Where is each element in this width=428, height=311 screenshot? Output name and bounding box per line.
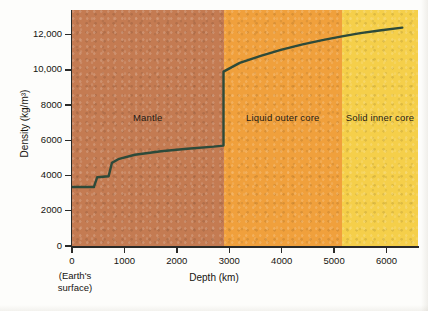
y-tick-label: 12,000	[0, 28, 62, 39]
x-tick-label: 6000	[376, 255, 397, 266]
y-tick-mark	[65, 34, 72, 35]
y-tick-mark	[65, 69, 72, 70]
page-edge-bottom	[0, 305, 428, 311]
density-depth-chart-figure: Density (kg/m³) Mantle Liquid outer core…	[0, 0, 428, 311]
y-tick-label: 4000	[0, 169, 62, 180]
y-tick-label: 8000	[0, 99, 62, 110]
y-tick-mark	[65, 175, 72, 176]
x-tick-mark	[386, 246, 387, 253]
x-tick-mark	[333, 246, 334, 253]
x-tick-label: 1000	[114, 255, 135, 266]
origin-annotation: (Earth's surface)	[46, 270, 104, 293]
y-tick-mark	[65, 210, 72, 211]
y-tick-mark	[65, 104, 72, 105]
x-tick-label: 3000	[219, 255, 240, 266]
origin-annotation-line1: (Earth's	[46, 270, 104, 282]
x-tick-mark	[124, 246, 125, 253]
y-tick-mark	[65, 140, 72, 141]
y-tick-label: 10,000	[0, 63, 62, 74]
page-edge-right	[421, 0, 428, 311]
x-tick-label: 0	[69, 255, 74, 266]
x-tick-label: 2000	[166, 255, 187, 266]
plot-area: Mantle Liquid outer core Solid inner cor…	[72, 10, 418, 246]
y-tick-label: 2000	[0, 204, 62, 215]
x-tick-mark	[176, 246, 177, 253]
origin-annotation-line2: surface)	[46, 282, 104, 294]
x-tick-label: 5000	[324, 255, 345, 266]
x-tick-label: 4000	[271, 255, 292, 266]
x-tick-mark	[229, 246, 230, 253]
y-tick-label: 6000	[0, 134, 62, 145]
y-tick-label: 0	[0, 240, 62, 251]
density-curve	[72, 10, 418, 246]
x-tick-mark	[71, 246, 72, 253]
x-tick-mark	[281, 246, 282, 253]
